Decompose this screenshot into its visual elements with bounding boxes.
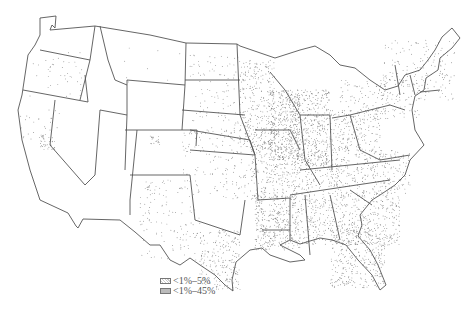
- legend: <1%–5% <1%–45%: [160, 276, 215, 296]
- state-borders: [18, 16, 460, 291]
- legend-swatch-dense: [160, 288, 171, 294]
- legend-swatch-light: [160, 278, 171, 284]
- legend-label-dense: <1%–45%: [173, 286, 215, 296]
- legend-item-dense: <1%–45%: [160, 286, 215, 296]
- us-stipple-map: [0, 0, 469, 311]
